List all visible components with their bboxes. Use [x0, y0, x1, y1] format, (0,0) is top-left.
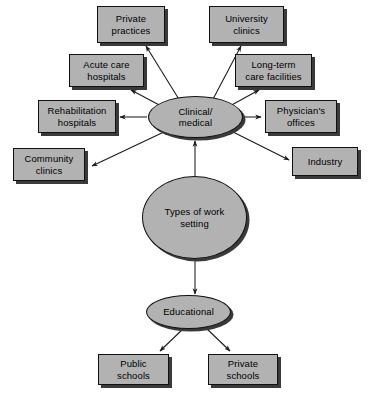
- node-university-clinics[interactable]: University clinics: [209, 6, 284, 43]
- node-acute-care-hospitals[interactable]: Acute care hospitals: [69, 54, 144, 87]
- node-types-of-work-setting[interactable]: Types of work setting: [142, 176, 247, 259]
- node-types-of-work-setting-label: Types of work setting: [163, 206, 227, 229]
- node-public-schools-label: Public schools: [115, 358, 152, 381]
- edge-educational-to-private-schools: [206, 328, 230, 351]
- node-private-schools-label: Private schools: [225, 358, 262, 381]
- work-setting-diagram: Private practices University clinics Acu…: [0, 0, 371, 399]
- node-private-schools[interactable]: Private schools: [208, 354, 278, 385]
- node-community-clinics-label: Community clinics: [23, 153, 76, 176]
- node-community-clinics[interactable]: Community clinics: [13, 148, 85, 181]
- node-industry-label: Industry: [306, 156, 345, 168]
- node-university-clinics-label: University clinics: [223, 13, 270, 36]
- edge-educational-to-public-schools: [160, 328, 184, 351]
- node-clinical-medical-label: Clinical/ medical: [176, 106, 214, 129]
- edge-clinical-to-community-clinics: [92, 131, 166, 166]
- node-physicians-offices[interactable]: Physician's offices: [265, 100, 337, 133]
- edge-clinical-to-industry: [231, 131, 289, 160]
- edge-clinical-to-private-practices: [146, 46, 180, 101]
- node-acute-care-hospitals-label: Acute care hospitals: [81, 59, 131, 82]
- node-long-term-care-facilities-label: Long-term care facilities: [243, 59, 303, 82]
- node-educational-label: Educational: [161, 306, 216, 318]
- node-clinical-medical[interactable]: Clinical/ medical: [148, 96, 243, 138]
- node-industry[interactable]: Industry: [292, 147, 358, 176]
- node-rehabilitation-hospitals-label: Rehabilitation hospitals: [46, 105, 109, 128]
- node-private-practices[interactable]: Private practices: [97, 6, 165, 43]
- node-educational[interactable]: Educational: [146, 295, 231, 329]
- node-rehabilitation-hospitals[interactable]: Rehabilitation hospitals: [38, 100, 116, 133]
- node-physicians-offices-label: Physician's offices: [275, 105, 327, 128]
- node-long-term-care-facilities[interactable]: Long-term care facilities: [235, 54, 312, 87]
- node-private-practices-label: Private practices: [110, 13, 153, 36]
- node-public-schools[interactable]: Public schools: [98, 354, 169, 385]
